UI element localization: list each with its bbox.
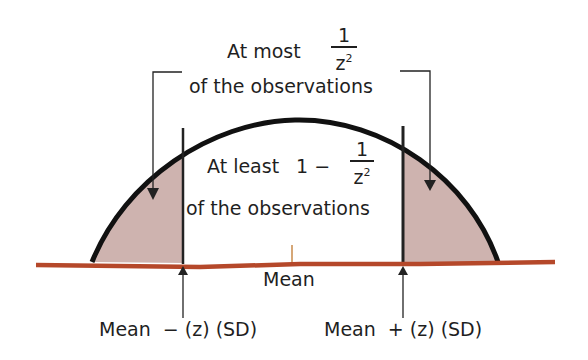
center-fraction-denominator: z2 (348, 162, 376, 188)
center-label-prefix: At least (207, 155, 279, 177)
lower-bound-label: Mean − (z) (SD) (99, 318, 257, 340)
center-label-suffix: of the observations (186, 197, 370, 219)
left-tail-shading (92, 158, 183, 263)
right-tail-shading (403, 151, 498, 262)
top-label-prefix: At most (227, 40, 301, 62)
upper-bound-label: Mean + (z) (SD) (324, 318, 482, 340)
right-pointer-arrowhead-icon (398, 266, 408, 275)
baseline-axis (36, 262, 555, 267)
top-label-fraction: 1 z2 (330, 24, 358, 74)
mean-label: Mean (263, 268, 315, 290)
top-label-suffix: of the observations (189, 75, 373, 97)
center-label-fraction: 1 z2 (348, 138, 376, 188)
center-label-one-minus: 1 − (296, 155, 330, 177)
top-fraction-numerator: 1 (330, 24, 358, 46)
center-fraction-numerator: 1 (348, 138, 376, 160)
top-fraction-denominator: z2 (330, 48, 358, 74)
